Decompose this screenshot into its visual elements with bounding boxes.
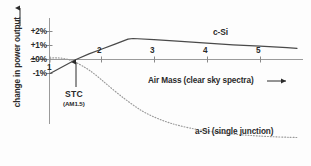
x-tick-label-1: 1 xyxy=(47,64,51,72)
chart-figure: change in power output +2% +1% ±0% -1% 1… xyxy=(0,0,311,166)
stc-annotation-label: STC xyxy=(65,90,83,99)
x-tick-label-2: 2 xyxy=(97,47,101,55)
y-tick-label-minus1: -1% xyxy=(21,70,47,78)
x-axis-label: Air Mass (clear sky spectra) xyxy=(148,77,254,85)
stc-annotation-sublabel: (AM1.5) xyxy=(63,101,85,107)
series-label-a-si: a-Si (single junction) xyxy=(195,128,273,136)
x-tick-label-4: 4 xyxy=(203,47,207,55)
series-label-c-si: c-Si xyxy=(213,28,228,36)
y-tick-label-plus1: +1% xyxy=(21,42,47,50)
y-tick-label-plus2: +2% xyxy=(21,28,47,36)
y-tick-label-zero: ±0% xyxy=(21,56,47,64)
x-tick-label-3: 3 xyxy=(150,47,154,55)
series-line-a-si xyxy=(50,58,298,138)
x-tick-label-5: 5 xyxy=(256,47,260,55)
